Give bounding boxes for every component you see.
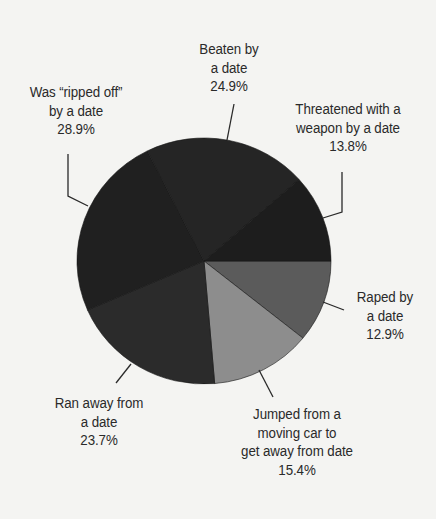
label-jumped: Jumped from a moving car to get away fro…	[241, 405, 353, 479]
label-value: 23.7%	[55, 431, 144, 450]
leader-line-raped	[323, 302, 344, 310]
leader-line-threatened	[323, 172, 342, 218]
label-text: Was “ripped off”	[30, 83, 123, 102]
label-text: by a date	[30, 102, 123, 121]
label-text: Jumped from a	[241, 405, 353, 424]
label-text: Beaten by	[199, 40, 258, 59]
label-text: a date	[55, 413, 144, 432]
label-text: Raped by	[357, 288, 413, 307]
label-raped: Raped by a date 12.9%	[357, 288, 413, 344]
leader-line-ran-away	[116, 364, 131, 383]
label-text: Ran away from	[55, 394, 144, 413]
leader-line-ripped-off	[68, 154, 88, 206]
label-text: a date	[199, 59, 258, 78]
label-value: 13.8%	[295, 137, 400, 156]
label-value: 28.9%	[30, 120, 123, 139]
label-ran-away: Ran away from a date 23.7%	[55, 394, 144, 450]
label-text: a date	[357, 307, 413, 326]
label-beaten: Beaten by a date 24.9%	[199, 40, 258, 96]
label-value: 12.9%	[357, 325, 413, 344]
label-text: moving car to	[241, 424, 353, 443]
label-text: get away from date	[241, 442, 353, 461]
label-value: 24.9%	[199, 77, 258, 96]
label-ripped-off: Was “ripped off” by a date 28.9%	[30, 83, 123, 139]
leader-line-jumped	[259, 370, 273, 397]
label-text: Threatened with a	[295, 100, 400, 119]
label-text: weapon by a date	[295, 119, 400, 138]
label-threatened: Threatened with a weapon by a date 13.8%	[295, 100, 400, 156]
pie-slices	[77, 138, 331, 384]
label-value: 15.4%	[241, 461, 353, 480]
leader-line-beaten	[227, 104, 234, 140]
